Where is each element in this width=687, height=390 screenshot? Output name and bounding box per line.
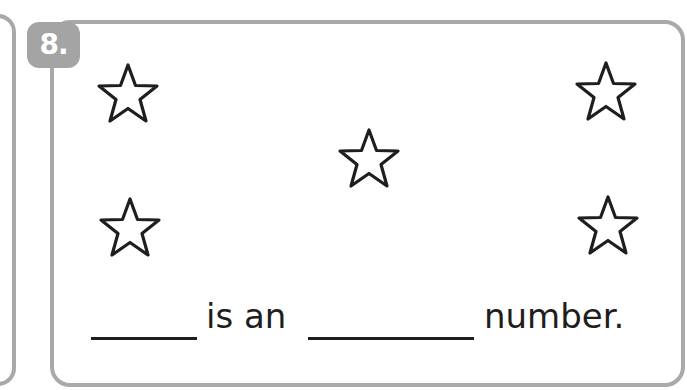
exercise-number-badge: 8. xyxy=(27,22,80,68)
sentence-text-number: number. xyxy=(484,294,624,338)
answer-blank-1[interactable] xyxy=(91,337,197,340)
star-outline-icon xyxy=(576,194,640,256)
answer-blank-2[interactable] xyxy=(308,337,474,340)
star-outline-icon xyxy=(98,196,162,258)
star-outline-icon xyxy=(574,60,638,122)
star-outline-icon xyxy=(96,62,160,124)
fill-in-sentence: is an number. xyxy=(0,294,687,344)
star-outline-icon xyxy=(337,127,401,189)
sentence-text-is-an: is an xyxy=(206,294,286,338)
